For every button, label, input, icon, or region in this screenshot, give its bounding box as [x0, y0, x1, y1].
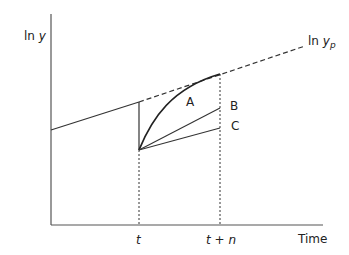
potential-trend-dashed-line: [139, 46, 305, 102]
y-axis-label-var: y: [39, 29, 46, 43]
path-c-label: C: [231, 120, 239, 132]
growth-diagram: [0, 0, 349, 255]
trend-label: ln yp: [308, 35, 336, 50]
x-tick-t-plus-n: t + n: [206, 234, 236, 246]
x-axis-label: Time: [298, 233, 327, 245]
path-c-line: [139, 128, 220, 150]
actual-output-line: [51, 102, 139, 130]
path-b-label: B: [230, 100, 238, 112]
y-axis-label: ln y: [24, 30, 46, 42]
path-b-line: [139, 108, 220, 150]
trend-label-sub: p: [330, 40, 336, 50]
y-axis-label-prefix: ln: [24, 29, 39, 43]
path-a-label: A: [186, 96, 194, 108]
x-tick-t: t: [136, 234, 141, 246]
trend-label-var: y: [323, 34, 330, 48]
trend-label-prefix: ln: [308, 34, 323, 48]
